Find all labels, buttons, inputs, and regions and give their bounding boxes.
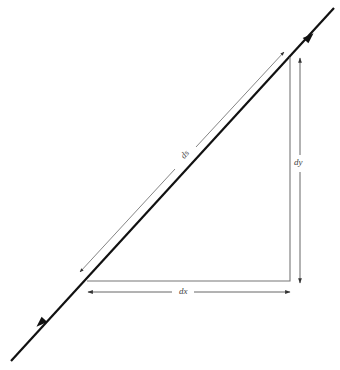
ds-arrow-lower <box>80 169 175 272</box>
dx-label: dx <box>176 287 191 296</box>
diagram-canvas: ds dy dx <box>0 0 340 370</box>
main-line-arrowhead-down-icon <box>37 317 48 327</box>
main-line <box>11 8 334 361</box>
dy-label: dy <box>293 158 304 167</box>
ds-arrow-upper <box>196 52 284 147</box>
diagram-svg <box>0 0 340 370</box>
